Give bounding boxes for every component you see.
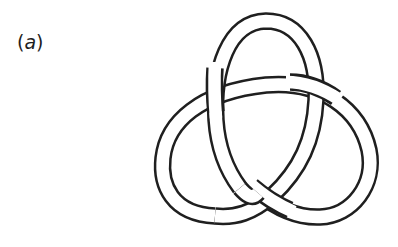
crossing-top-left <box>214 62 216 118</box>
trefoil-knot-diagram <box>0 0 398 247</box>
